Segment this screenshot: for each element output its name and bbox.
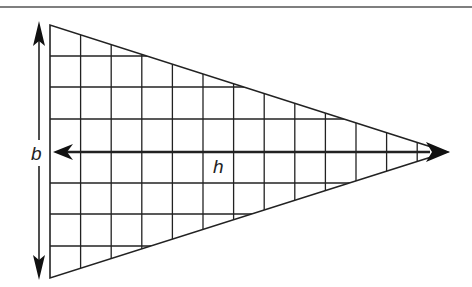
height-arrow <box>53 142 450 162</box>
grid <box>0 0 472 287</box>
height-label: h <box>213 156 224 177</box>
base-label: b <box>31 143 42 164</box>
triangle-diagram: b h <box>0 0 472 287</box>
